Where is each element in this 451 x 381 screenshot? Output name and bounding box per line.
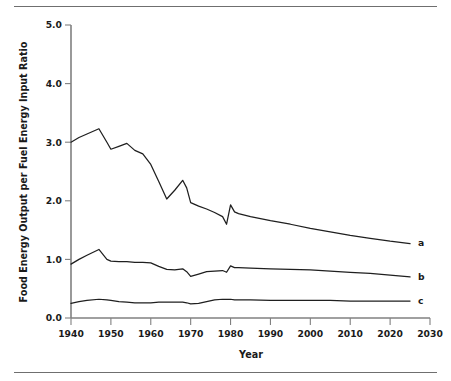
ticks-group <box>65 25 430 325</box>
series-line-a <box>71 129 410 244</box>
x-tick-label: 2000 <box>298 328 324 339</box>
y-tick-label: 5.0 <box>46 19 62 30</box>
series-line-c <box>71 299 410 304</box>
x-tick-label: 2020 <box>377 328 403 339</box>
series-label-b: b <box>418 271 425 282</box>
line-chart: 0.01.02.03.04.05.01940195019601970198019… <box>0 0 451 381</box>
series-line-b <box>71 249 410 277</box>
tick-labels-group: 0.01.02.03.04.05.01940195019601970198019… <box>46 19 443 339</box>
series-lines-group <box>71 129 410 304</box>
series-label-a: a <box>418 237 424 248</box>
y-tick-label: 3.0 <box>46 137 62 148</box>
series-label-c: c <box>418 295 423 306</box>
x-tick-label: 1980 <box>218 328 244 339</box>
y-tick-label: 2.0 <box>46 195 62 206</box>
x-tick-label: 1940 <box>58 328 84 339</box>
y-tick-label: 4.0 <box>46 78 62 89</box>
x-tick-label: 1990 <box>258 328 284 339</box>
x-tick-label: 1970 <box>178 328 204 339</box>
y-axis-title: Food Energy Output per Fuel Energy Input… <box>18 41 29 302</box>
figure-container: 0.01.02.03.04.05.01940195019601970198019… <box>0 0 451 381</box>
y-tick-label: 1.0 <box>46 254 62 265</box>
x-tick-label: 2030 <box>417 328 443 339</box>
y-tick-label: 0.0 <box>46 312 62 323</box>
x-tick-label: 1950 <box>98 328 124 339</box>
x-tick-label: 2010 <box>337 328 363 339</box>
x-axis-title: Year <box>238 349 263 360</box>
x-tick-label: 1960 <box>138 328 164 339</box>
